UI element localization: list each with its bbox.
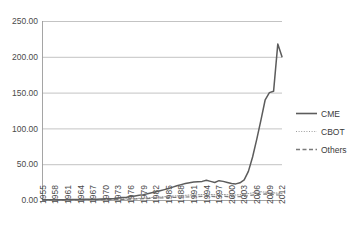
x-axis-tick-label: 1970 [101, 185, 111, 204]
x-axis-tick-label: 1955 [38, 185, 48, 204]
x-axis-tick-label: 1958 [50, 185, 60, 204]
y-axis-tick-label: 200.00 [12, 52, 38, 62]
x-axis-tick-label: 1982 [151, 185, 161, 204]
legend-label-cme: CME [321, 109, 340, 119]
legend: CME CBOT Others [296, 109, 347, 155]
x-axis-tick-labels: 1955195819611964196719701973197619791982… [38, 185, 288, 204]
line-chart: 0.0050.00100.00150.00200.00250.00 195519… [0, 0, 362, 250]
legend-label-cbot: CBOT [321, 127, 345, 137]
x-axis-tick-label: 1976 [126, 185, 136, 204]
y-axis-tick-label: 250.00 [12, 16, 38, 26]
x-axis-tick-label: 1973 [113, 185, 123, 204]
series-group [43, 44, 283, 200]
gridlines [43, 22, 283, 165]
y-axis-tick-label: 100.00 [12, 124, 38, 134]
y-axis-tick-labels: 0.0050.00100.00150.00200.00250.00 [12, 16, 38, 205]
x-axis-tick-label: 1988 [176, 185, 186, 204]
x-axis-tick-label: 1967 [88, 185, 98, 204]
y-axis-tick-label: 150.00 [12, 88, 38, 98]
y-axis-tick-label: 0.00 [21, 195, 38, 205]
chart-canvas: 0.0050.00100.00150.00200.00250.00 195519… [0, 0, 362, 250]
x-axis-tick-label: 2012 [277, 185, 287, 204]
y-axis-tick-label: 50.00 [17, 159, 39, 169]
series-line-cme [43, 44, 283, 200]
legend-label-others: Others [321, 145, 347, 155]
x-axis-tick-label: 1964 [76, 185, 86, 204]
x-axis-tick-label: 1961 [63, 185, 73, 204]
